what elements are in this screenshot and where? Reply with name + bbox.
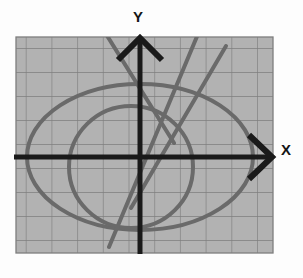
x-axis-label: X: [281, 142, 291, 157]
y-axis-label: Y: [133, 9, 143, 24]
graph-figure: Y X: [0, 0, 303, 278]
coordinate-graph-svg: [0, 0, 303, 278]
plot-grid: [16, 37, 273, 253]
